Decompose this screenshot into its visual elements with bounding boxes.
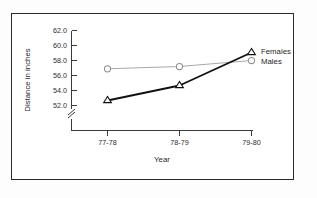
series-line-females: [108, 53, 252, 101]
y-tick-label-56: 56.0: [53, 71, 67, 80]
x-tick-label-78-79: 78-79: [170, 138, 188, 147]
data-point-males-79-80: [248, 57, 254, 63]
figure-frame: 62.0 60.0 58.0 56.0 54.0 52.0 Distance i…: [11, 13, 294, 180]
y-axis-title: Distance in inches: [23, 48, 32, 111]
y-tick-label-54: 54.0: [53, 86, 67, 95]
y-tick-label-62: 62.0: [53, 26, 67, 35]
axis-break-icon: [68, 109, 75, 118]
x-axis-title: Year: [154, 155, 170, 164]
data-point-males-78-79: [176, 63, 182, 69]
screenshot-page: 62.0 60.0 58.0 56.0 54.0 52.0 Distance i…: [0, 0, 317, 198]
y-tick-label-60: 60.0: [53, 41, 67, 50]
line-chart: 62.0 60.0 58.0 56.0 54.0 52.0 Distance i…: [12, 14, 293, 179]
data-point-females-79-80: [248, 48, 256, 54]
x-tick-label-79-80: 79-80: [242, 138, 260, 147]
data-point-males-77-78: [104, 66, 110, 72]
legend-label-males: Males: [261, 57, 282, 66]
y-tick-label-58: 58.0: [53, 56, 67, 65]
y-tick-label-52: 52.0: [53, 101, 67, 110]
legend-label-females: Females: [261, 47, 291, 56]
x-tick-label-77-78: 77-78: [98, 138, 116, 147]
